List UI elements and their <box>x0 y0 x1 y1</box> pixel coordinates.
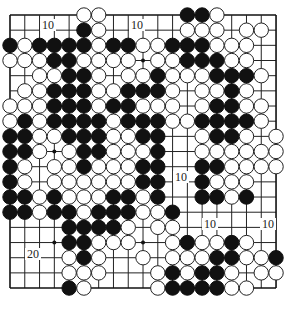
white-stone <box>121 144 135 158</box>
black-stone <box>77 235 91 249</box>
black-stone <box>210 160 224 174</box>
move-number-label: 10 <box>262 217 274 231</box>
white-stone <box>62 144 76 158</box>
black-stone <box>106 190 120 204</box>
black-stone <box>195 281 209 295</box>
white-stone <box>151 38 165 52</box>
black-stone <box>77 144 91 158</box>
white-stone <box>47 129 61 143</box>
black-stone <box>62 281 76 295</box>
white-stone <box>180 23 194 37</box>
white-stone <box>18 160 32 174</box>
black-stone <box>47 190 61 204</box>
black-stone <box>91 144 105 158</box>
black-stone <box>210 266 224 280</box>
black-stone <box>165 281 179 295</box>
black-stone <box>151 68 165 82</box>
black-stone <box>195 8 209 22</box>
white-stone <box>225 38 239 52</box>
white-stone <box>180 266 194 280</box>
black-stone <box>3 129 17 143</box>
white-stone <box>239 281 253 295</box>
white-stone <box>254 68 268 82</box>
black-stone <box>195 114 209 128</box>
white-stone <box>18 84 32 98</box>
black-stone <box>195 266 209 280</box>
black-stone <box>18 144 32 158</box>
black-stone <box>165 205 179 219</box>
white-stone <box>136 251 150 265</box>
white-stone <box>239 53 253 67</box>
black-stone <box>77 220 91 234</box>
black-stone <box>165 38 179 52</box>
white-stone <box>106 114 120 128</box>
white-stone <box>62 266 76 280</box>
white-stone <box>32 144 46 158</box>
star-point-icon <box>141 59 145 63</box>
white-stone <box>180 251 194 265</box>
black-stone <box>91 205 105 219</box>
move-number-label: 10 <box>175 170 187 184</box>
white-stone <box>91 266 105 280</box>
black-stone <box>225 68 239 82</box>
black-stone <box>91 114 105 128</box>
white-stone <box>91 251 105 265</box>
black-stone <box>106 99 120 113</box>
white-stone <box>210 23 224 37</box>
white-stone <box>239 235 253 249</box>
white-stone <box>32 114 46 128</box>
black-stone <box>3 38 17 52</box>
black-stone <box>47 53 61 67</box>
star-point-icon <box>141 241 145 245</box>
white-stone <box>151 266 165 280</box>
white-stone <box>239 38 253 52</box>
black-stone <box>195 175 209 189</box>
white-stone <box>91 8 105 22</box>
white-stone <box>106 235 120 249</box>
white-stone <box>18 53 32 67</box>
white-stone <box>195 68 209 82</box>
black-stone <box>225 235 239 249</box>
white-stone <box>91 23 105 37</box>
white-stone <box>77 175 91 189</box>
black-stone <box>121 84 135 98</box>
black-stone <box>136 129 150 143</box>
black-stone <box>225 129 239 143</box>
black-stone <box>180 8 194 22</box>
black-stone <box>180 53 194 67</box>
white-stone <box>254 251 268 265</box>
white-stone <box>62 175 76 189</box>
white-stone <box>210 84 224 98</box>
white-stone <box>239 99 253 113</box>
white-stone <box>121 160 135 174</box>
white-stone <box>254 23 268 37</box>
white-stone <box>165 251 179 265</box>
white-stone <box>121 175 135 189</box>
white-stone <box>77 190 91 204</box>
black-stone <box>210 99 224 113</box>
white-stone <box>121 68 135 82</box>
white-stone <box>121 129 135 143</box>
white-stone <box>47 160 61 174</box>
white-stone <box>18 38 32 52</box>
white-stone <box>254 266 268 280</box>
black-stone <box>77 23 91 37</box>
white-stone <box>225 144 239 158</box>
white-stone <box>225 160 239 174</box>
black-stone <box>225 84 239 98</box>
white-stone <box>225 266 239 280</box>
black-stone <box>77 38 91 52</box>
white-stone <box>106 144 120 158</box>
white-stone <box>77 53 91 67</box>
white-stone <box>121 53 135 67</box>
black-stone <box>136 84 150 98</box>
white-stone <box>254 99 268 113</box>
white-stone <box>136 205 150 219</box>
black-stone <box>210 68 224 82</box>
white-stone <box>151 53 165 67</box>
white-stone <box>106 175 120 189</box>
black-stone <box>62 205 76 219</box>
black-stone <box>151 160 165 174</box>
star-point-icon <box>52 150 56 154</box>
white-stone <box>165 235 179 249</box>
